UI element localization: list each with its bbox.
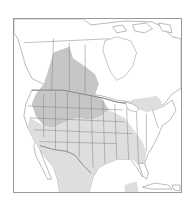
hispaniola [172, 185, 180, 191]
yucatan-shading [125, 181, 139, 192]
cuba [142, 183, 172, 189]
map-frame [13, 18, 182, 193]
north-america-range-map [14, 19, 181, 192]
